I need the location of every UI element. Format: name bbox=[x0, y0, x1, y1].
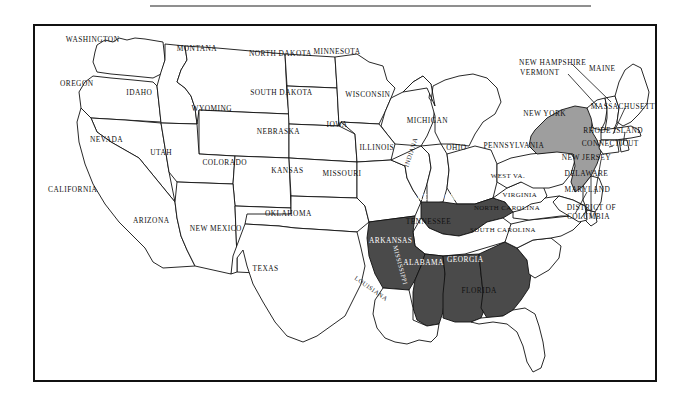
header-rule bbox=[150, 5, 591, 7]
state-shape-florida[interactable] bbox=[471, 308, 545, 372]
state-label-ohio: OHIO bbox=[446, 143, 466, 152]
state-label-rhode-island: RHODE ISLAND bbox=[583, 126, 643, 135]
state-label-utah: UTAH bbox=[150, 148, 172, 157]
state-label-tennessee: TENNESSEE bbox=[406, 217, 452, 226]
state-label-oklahoma: OKLAHOMA bbox=[265, 209, 312, 218]
state-label-north-carolina: NORTH CAROLINA bbox=[474, 204, 540, 211]
state-label-montana: MONTANA bbox=[177, 44, 218, 53]
state-label-new-mexico: NEW MEXICO bbox=[190, 224, 242, 233]
state-label-vermont: VERMONT bbox=[520, 68, 560, 77]
state-label-missouri: MISSOURI bbox=[323, 169, 362, 178]
state-label-iowa: IOWA bbox=[327, 120, 348, 129]
state-label-new-york: NEW YORK bbox=[523, 109, 566, 118]
state-label-california: CALIFORNIA bbox=[48, 185, 97, 194]
state-label-idaho: IDAHO bbox=[126, 88, 152, 97]
state-label-south-carolina: SOUTH CAROLINA bbox=[470, 226, 536, 233]
state-label-arkansas: ARKANSAS bbox=[369, 236, 412, 245]
state-label-arizona: ARIZONA bbox=[133, 216, 170, 225]
state-label-oregon: OREGON bbox=[60, 79, 94, 88]
state-label-washington: WASHINGTON bbox=[66, 35, 120, 44]
state-label-virginia: VIRGINIA bbox=[503, 191, 538, 198]
state-label-maryland: MARYLAND bbox=[564, 185, 610, 194]
state-label-district-of: DISTRICT OF bbox=[567, 203, 616, 212]
state-shape-north-dakota[interactable] bbox=[285, 54, 337, 88]
united-states-map[interactable]: WASHINGTONOREGONIDAHOMONTANAWYOMINGNEVAD… bbox=[35, 26, 655, 380]
state-label-maine: MAINE bbox=[589, 64, 616, 73]
header-strip bbox=[0, 0, 689, 9]
state-label-new-hampshire: NEW HAMPSHIRE bbox=[519, 58, 586, 67]
state-label-florida: FLORIDA bbox=[462, 286, 497, 295]
map-frame: WASHINGTONOREGONIDAHOMONTANAWYOMINGNEVAD… bbox=[33, 24, 657, 382]
state-label-colorado: COLORADO bbox=[202, 158, 247, 167]
state-label-new-jersey: NEW JERSEY bbox=[562, 153, 612, 162]
state-label-kentucky: KENTUCKY bbox=[417, 193, 461, 202]
state-label-illinois: ILLINOIS bbox=[359, 143, 394, 152]
state-label-texas: TEXAS bbox=[252, 264, 278, 273]
state-label-kansas: KANSAS bbox=[271, 166, 303, 175]
state-label-columbia: COLUMBIA bbox=[567, 212, 610, 221]
state-label-alabama: ALABAMA bbox=[403, 258, 444, 267]
map-page: WASHINGTONOREGONIDAHOMONTANAWYOMINGNEVAD… bbox=[0, 0, 689, 406]
state-label-west-va: WEST VA. bbox=[491, 172, 525, 179]
state-shape-washington[interactable] bbox=[93, 38, 165, 78]
state-label-minnesota: MINNESOTA bbox=[314, 47, 361, 56]
state-label-georgia: GEORGIA bbox=[447, 255, 484, 264]
state-label-south-dakota: SOUTH DAKOTA bbox=[250, 88, 313, 97]
state-label-michigan: MICHIGAN bbox=[407, 116, 449, 125]
state-shape-texas[interactable] bbox=[231, 224, 365, 342]
state-label-connecticut: CONNECTICUT bbox=[582, 139, 639, 148]
state-label-wyoming: WYOMING bbox=[192, 104, 233, 113]
state-label-massachusetts: MASSACHUSETTS bbox=[591, 102, 655, 111]
state-label-nevada: NEVADA bbox=[90, 135, 123, 144]
state-label-wisconsin: WISCONSIN bbox=[345, 90, 390, 99]
state-shape-maine[interactable] bbox=[615, 64, 649, 126]
state-label-delaware: DELAWARE bbox=[565, 169, 609, 178]
state-label-nebraska: NEBRASKA bbox=[257, 127, 301, 136]
state-label-north-dakota: NORTH DAKOTA bbox=[249, 49, 312, 58]
state-label-pennsylvania: PENNSYLVANIA bbox=[483, 141, 544, 150]
